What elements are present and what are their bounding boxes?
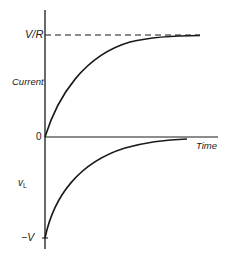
neg-v-label: −V: [21, 232, 34, 243]
time-axis-label: Time: [196, 141, 217, 151]
steady-state-label: V/R: [25, 29, 43, 40]
current-axis-label: Current: [12, 77, 44, 87]
inductor-voltage-curve: [45, 139, 187, 238]
rl-transient-diagram: V/R Current 0 Time vL −V: [0, 0, 227, 259]
vl-subscript: L: [23, 182, 27, 189]
inductor-voltage-axis-label: vL: [18, 178, 27, 189]
current-curve: [45, 36, 200, 138]
zero-label: 0: [36, 132, 42, 142]
